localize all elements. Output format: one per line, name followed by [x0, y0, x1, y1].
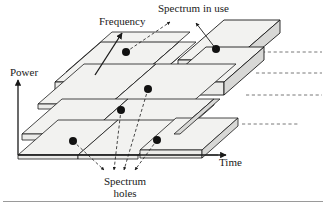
bottom-divider-rule: [3, 201, 323, 202]
spectrum-in-use-label: Spectrum in use: [158, 2, 229, 14]
spectrum-holes-label: Spectrum holes: [95, 175, 155, 200]
power-axis-label: Power: [10, 66, 38, 78]
diagram-canvas: [0, 0, 326, 211]
spectrum-holes-label-line1: Spectrum: [95, 175, 155, 187]
spectrum-holes-label-line2: holes: [95, 187, 155, 199]
frequency-axis-label: Frequency: [99, 15, 145, 27]
time-axis-label: Time: [219, 156, 242, 168]
spectrum-diagram-figure: Power Frequency Time Spectrum in use Spe…: [0, 0, 326, 211]
